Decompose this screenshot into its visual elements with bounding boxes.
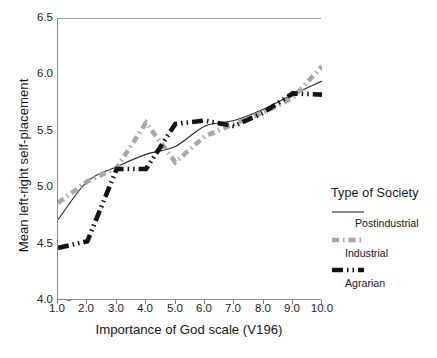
legend-swatch-solid-icon [331, 208, 365, 216]
legend-label: Postindustrial [355, 217, 419, 229]
series-line-agrarian [58, 93, 322, 248]
y-tick-label: 5.0 [37, 181, 53, 193]
x-tick-label: 9.0 [275, 303, 309, 315]
y-tick-label: 6.0 [37, 68, 53, 80]
y-tick-label: 5.5 [37, 125, 53, 137]
x-axis-title: Importance of God scale (V196) [57, 322, 321, 337]
x-tick-label: 7.0 [216, 303, 250, 315]
y-tick-label: 4.5 [37, 238, 53, 250]
legend-item-postindustrial[interactable]: Postindustrial [331, 206, 435, 236]
x-tick-label: 2.0 [69, 303, 103, 315]
y-axis-title: Mean left-right self-placement [16, 56, 31, 276]
series-line-postindustrial [58, 81, 322, 220]
legend-item-industrial[interactable]: Industrial [331, 236, 435, 266]
legend-item-agrarian[interactable]: Agrarian [331, 266, 435, 296]
series-canvas [58, 19, 322, 301]
legend-swatch-dashdot-icon [331, 266, 365, 274]
legend-label: Industrial [345, 247, 388, 259]
plot-area [57, 18, 321, 300]
legend-label: Agrarian [345, 277, 385, 289]
series-line-industrial [58, 66, 322, 202]
legend-swatch-dashed-icon [331, 236, 365, 244]
x-tick-label: 10.0 [305, 303, 339, 315]
legend: Type of Society Postindustrial Industria… [331, 186, 435, 296]
chart-figure: 6.5 6.0 5.5 5.0 4.5 4.0 Mean left-right … [0, 0, 437, 358]
x-tick-label: 4.0 [128, 303, 162, 315]
y-tick-label: 6.5 [37, 12, 53, 24]
legend-title: Type of Society [331, 186, 435, 200]
